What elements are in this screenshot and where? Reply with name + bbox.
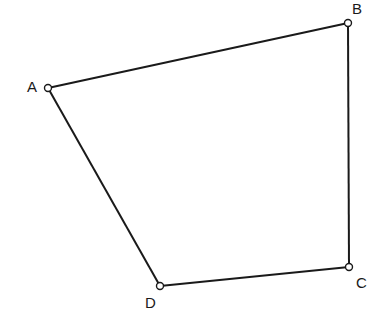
vertex-c: [346, 264, 353, 271]
edge-bc: [348, 23, 349, 267]
label-a: A: [27, 78, 37, 95]
edge-cd: [160, 267, 349, 286]
quadrilateral-diagram: A B C D: [0, 0, 392, 321]
edge-ab: [48, 23, 348, 88]
label-b: B: [352, 0, 362, 17]
label-c: C: [356, 274, 367, 291]
label-d: D: [145, 294, 156, 311]
edge-da: [48, 88, 160, 286]
vertex-d: [157, 283, 164, 290]
vertex-b: [345, 20, 352, 27]
vertex-a: [45, 85, 52, 92]
